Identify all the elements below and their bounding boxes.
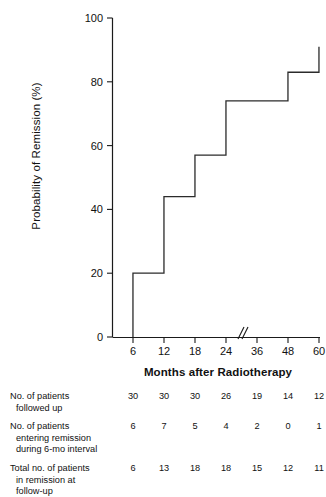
table-cell: 7 <box>153 421 175 433</box>
y-tick-label: 80 <box>91 76 103 88</box>
y-tick-label: 20 <box>91 267 103 279</box>
table-cell: 5 <box>184 421 206 433</box>
table-cell: 26 <box>215 391 237 403</box>
table-row: Total no. of patients in remission at fo… <box>0 463 326 497</box>
y-axis-label: Probability of Remission (%) <box>30 41 42 271</box>
row-label: No. of patients followed up <box>10 391 120 414</box>
table-cell: 15 <box>246 463 268 475</box>
row-label: Total no. of patients in remission at fo… <box>10 463 120 497</box>
table-cell: 18 <box>215 463 237 475</box>
row-values: 6 13 18 18 15 12 11 <box>122 463 326 475</box>
table-cell: 6 <box>122 463 144 475</box>
table-cell: 18 <box>184 463 206 475</box>
x-axis-tick-labels: 6 12 18 24 36 48 60 <box>130 345 325 357</box>
table-cell: 12 <box>277 463 299 475</box>
y-axis-tick-labels: 100 80 60 40 20 0 <box>85 12 103 343</box>
remission-probability-figure: 100 80 60 40 20 0 <box>0 0 326 497</box>
row-label-line2: in remission at <box>10 475 120 487</box>
table-cell: 30 <box>184 391 206 403</box>
row-label-line1: No. of patients <box>10 421 69 431</box>
y-axis-ticks <box>107 18 113 337</box>
row-label-line2: followed up <box>10 403 120 415</box>
row-label-line1: Total no. of patients <box>10 463 90 473</box>
y-tick-label: 0 <box>97 331 103 343</box>
row-values: 6 7 5 4 2 0 1 <box>122 421 326 433</box>
remission-step-curve <box>133 47 319 337</box>
row-label-line3: follow-up <box>10 486 120 497</box>
y-tick-label: 60 <box>91 140 103 152</box>
table-cell: 1 <box>308 421 326 433</box>
table-cell: 19 <box>246 391 268 403</box>
y-tick-label: 40 <box>91 203 103 215</box>
table-cell: 14 <box>277 391 299 403</box>
row-label: No. of patients entering remission durin… <box>10 421 120 456</box>
x-axis-ticks <box>133 338 319 344</box>
table-cell: 12 <box>308 391 326 403</box>
table-cell: 4 <box>215 421 237 433</box>
row-values: 30 30 30 26 19 14 12 <box>122 391 326 403</box>
row-label-line3: during 6-mo interval <box>10 444 120 456</box>
row-label-line1: No. of patients <box>10 391 69 401</box>
plot-area: 100 80 60 40 20 0 <box>0 0 326 362</box>
table-cell: 30 <box>122 391 144 403</box>
patient-counts-table: No. of patients followed up 30 30 30 26 … <box>0 391 326 497</box>
table-row: No. of patients followed up 30 30 30 26 … <box>0 391 326 416</box>
x-tick-label: 24 <box>220 345 232 357</box>
table-cell: 2 <box>246 421 268 433</box>
row-label-line2: entering remission <box>10 433 120 445</box>
table-cell: 6 <box>122 421 144 433</box>
kaplan-meier-step-plot: 100 80 60 40 20 0 <box>0 0 326 362</box>
x-tick-label: 48 <box>282 345 294 357</box>
table-row: No. of patients entering remission durin… <box>0 421 326 458</box>
x-tick-label: 6 <box>130 345 136 357</box>
y-tick-label: 100 <box>85 12 103 24</box>
x-axis-label: Months after Radiotherapy <box>112 366 324 378</box>
table-cell: 13 <box>153 463 175 475</box>
x-tick-label: 18 <box>189 345 201 357</box>
x-tick-label: 60 <box>313 345 325 357</box>
table-cell: 30 <box>153 391 175 403</box>
x-tick-label: 12 <box>158 345 170 357</box>
x-tick-label: 36 <box>251 345 263 357</box>
table-cell: 11 <box>308 463 326 475</box>
table-cell: 0 <box>277 421 299 433</box>
